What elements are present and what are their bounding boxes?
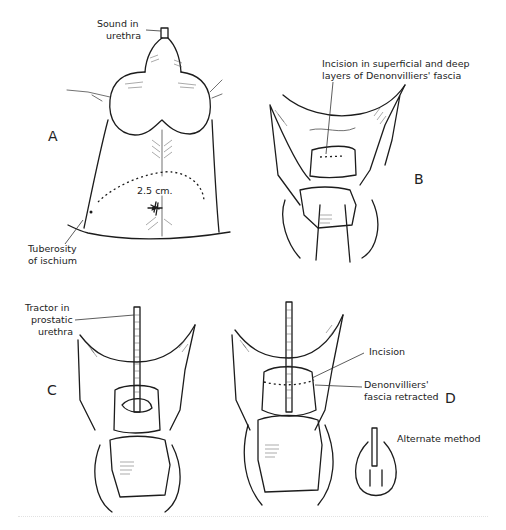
label-incision-b-1: Incision in superficial and deep xyxy=(322,58,470,70)
label-tractor-2: prostatic xyxy=(31,314,73,326)
label-fascia-2: fascia retracted xyxy=(364,391,439,403)
panel-letter-a: A xyxy=(48,128,58,144)
cropped-caption-line xyxy=(18,516,488,523)
label-incision-d: Incision xyxy=(369,346,405,358)
label-tractor-1: Tractor in xyxy=(25,302,69,314)
panel-letter-b: B xyxy=(414,171,424,187)
ischium-marker xyxy=(90,211,93,214)
label-sound-in-urethra-1: Sound in xyxy=(97,18,139,30)
label-tractor-3: urethra xyxy=(38,326,73,338)
tractor-rod xyxy=(134,307,140,412)
anus-marker xyxy=(148,202,162,215)
panel-c-drawing xyxy=(75,307,195,512)
label-fascia-1: Denonvilliers' xyxy=(364,379,429,391)
label-tuberosity-2: of ischium xyxy=(28,255,77,267)
label-measurement: 2.5 cm. xyxy=(137,185,173,197)
panel-a-drawing xyxy=(65,28,230,244)
sound-tip xyxy=(161,28,168,38)
alternate-method-drawing xyxy=(356,428,397,496)
panel-d-drawing xyxy=(232,302,396,505)
panel-letter-c: C xyxy=(47,382,57,398)
label-tuberosity-1: Tuberosity xyxy=(28,243,77,255)
label-sound-in-urethra-2: urethra xyxy=(106,30,141,42)
tractor-rod-d xyxy=(286,302,292,412)
panel-b-drawing xyxy=(270,82,405,262)
label-alternate-method: Alternate method xyxy=(397,433,481,445)
label-incision-b-2: layers of Denonvilliers' fascia xyxy=(322,70,461,82)
panel-letter-d: D xyxy=(445,390,456,406)
